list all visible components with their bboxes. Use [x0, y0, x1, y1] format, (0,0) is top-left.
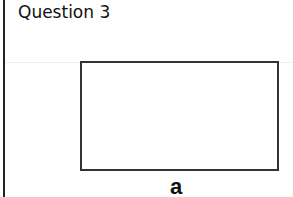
- rectangle-shape: [80, 61, 279, 171]
- side-label: a: [170, 174, 182, 197]
- left-border: [3, 0, 5, 197]
- question-title: Question 3: [18, 2, 110, 22]
